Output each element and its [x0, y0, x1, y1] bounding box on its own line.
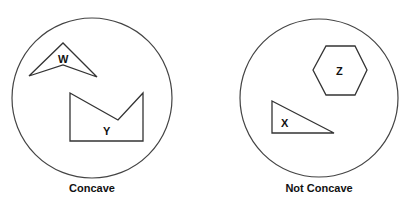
not-concave-circle — [240, 19, 398, 177]
not-concave-group: Z X Not Concave — [240, 19, 398, 194]
not-concave-caption: Not Concave — [285, 182, 352, 194]
shape-w-label: W — [58, 53, 69, 65]
concave-circle — [12, 18, 172, 178]
shape-y-label: Y — [103, 125, 111, 137]
shape-x-label: X — [281, 117, 289, 129]
shape-z-label: Z — [336, 65, 343, 77]
concavity-diagram: W Y Concave Z X Not Concave — [0, 0, 412, 203]
concave-caption: Concave — [69, 182, 115, 194]
concave-group: W Y Concave — [12, 18, 172, 194]
